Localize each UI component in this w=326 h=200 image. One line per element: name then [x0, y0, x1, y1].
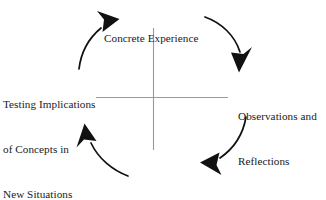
node-label-line: of Concepts in — [3, 142, 96, 157]
arrow-top-right-head — [231, 47, 252, 73]
node-label-line: Testing Implications — [3, 97, 96, 112]
node-label-line: New Situations — [3, 187, 96, 200]
arrow-top-left-curve — [79, 28, 101, 69]
node-label-line: Formation of Abstract — [85, 199, 220, 200]
node-label-concrete-experience: Concrete Experience — [104, 1, 198, 76]
node-label-line: Concrete Experience — [104, 31, 198, 46]
node-label-testing-implications-of-concepts: Testing Implications of Concepts in New … — [3, 67, 96, 200]
arrow-top-right — [205, 17, 252, 73]
node-label-line: Reflections — [238, 154, 317, 169]
node-label-formation-of-abstract-concepts: Formation of Abstract Concepts and Gener… — [85, 169, 220, 200]
arrow-top-right-curve — [205, 17, 240, 52]
diagram-canvas: Concrete Experience Observations and Ref… — [0, 0, 326, 200]
node-label-line: Observations and — [238, 109, 317, 124]
node-label-observations-and-reflections: Observations and Reflections — [238, 79, 317, 199]
